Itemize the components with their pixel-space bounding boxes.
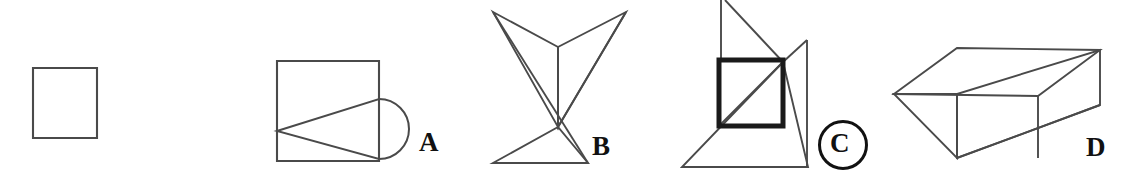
option-b-left-long-edge xyxy=(493,12,588,163)
prompt-square xyxy=(33,68,97,138)
option-d-left-face xyxy=(894,94,957,158)
option-d-bottom-edge xyxy=(957,105,1100,158)
option-b-lower-triangle xyxy=(493,127,588,163)
prompt-square-group xyxy=(33,68,97,138)
option-c-peak-line xyxy=(783,40,807,62)
option-label-d[interactable]: D xyxy=(1086,134,1106,161)
figure-svg xyxy=(0,0,1128,173)
option-c-top-diagonal xyxy=(725,0,783,62)
option-c-inner-diagonal xyxy=(719,62,783,126)
option-a-figure[interactable] xyxy=(277,61,409,161)
option-label-b[interactable]: B xyxy=(592,133,610,160)
figure-canvas: A B C D xyxy=(0,0,1128,173)
option-c-big-triangle xyxy=(682,62,808,167)
option-c-figure[interactable] xyxy=(682,0,808,167)
option-a-semicircle xyxy=(379,99,409,159)
option-a-triangle xyxy=(277,99,379,159)
option-label-c[interactable]: C xyxy=(830,130,850,157)
option-d-figure[interactable] xyxy=(894,48,1100,158)
option-label-a[interactable]: A xyxy=(419,129,439,156)
option-d-top-face xyxy=(894,48,1100,96)
